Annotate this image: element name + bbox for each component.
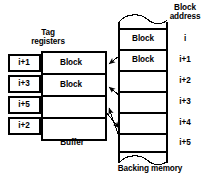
block-address-value-4: i+3	[164, 98, 206, 107]
arrow-memory-i3-to-buffer-row-2	[109, 87, 120, 96]
block-address-value-3: i+2	[164, 77, 206, 86]
block-address-value-1: i	[164, 35, 206, 44]
buffer-cell-label-2: Block	[36, 81, 106, 90]
block-address-value-5: i+4	[164, 119, 206, 128]
tag-register-value-3: i+5	[9, 101, 39, 110]
arrow-buffer-row-4-to-memory-i2	[106, 112, 119, 128]
arrow-memory-i1-to-buffer-row-1	[109, 56, 119, 64]
tag-registers-caption: Tag registers	[16, 29, 80, 47]
buffer-caption: Buffer	[36, 139, 108, 148]
block-address-value-6: i+5	[164, 139, 206, 148]
mapping-arrows	[106, 56, 120, 140]
diagram-canvas	[0, 0, 215, 181]
memory-cell-label-2: Block	[119, 56, 167, 65]
tag-register-value-4: i+2	[9, 122, 39, 131]
tag-register-value-1: i+1	[9, 59, 39, 68]
memory-cell-label-1: Block	[119, 35, 167, 44]
backing-memory-caption: Backing memory	[105, 165, 195, 174]
block-address-value-2: i+1	[164, 56, 206, 65]
block-address-caption: Block address	[157, 4, 213, 22]
arrow-memory-i5-to-buffer-row-3	[109, 108, 120, 140]
tag-register-value-2: i+3	[9, 80, 39, 89]
block-mapping-diagram: Tag registers Block address Buffer Backi…	[0, 0, 215, 181]
buffer-cell-label-1: Block	[36, 59, 106, 68]
